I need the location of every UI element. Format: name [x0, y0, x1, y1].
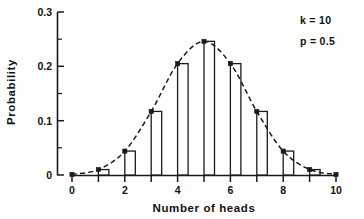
y-label-0: 0	[46, 169, 52, 181]
x-label-2: 2	[122, 184, 128, 196]
data-point-marker	[123, 149, 127, 153]
chart-svg: 0.3 0.2 0.1 0 Probability 0 2 4 6	[0, 0, 364, 219]
x-label-6: 6	[227, 184, 233, 196]
bar	[125, 151, 136, 175]
data-point-marker	[308, 167, 312, 171]
x-axis-title: Number of heads	[153, 202, 256, 214]
bar	[204, 41, 215, 175]
data-point-marker	[281, 149, 285, 153]
x-label-0: 0	[69, 184, 75, 196]
data-point-marker	[149, 109, 153, 113]
y-label-0.3: 0.3	[37, 6, 52, 18]
x-axis	[72, 176, 336, 183]
bar	[283, 151, 294, 175]
data-point-marker	[96, 167, 100, 171]
data-point-marker	[228, 62, 232, 66]
data-point-marker	[176, 62, 180, 66]
x-label-10: 10	[330, 184, 342, 196]
y-tick-labels: 0.3 0.2 0.1 0	[37, 6, 52, 181]
x-tick-labels: 0 2 4 6 8 10	[69, 184, 342, 196]
bar	[178, 64, 189, 175]
y-axis	[58, 12, 65, 176]
x-label-8: 8	[280, 184, 286, 196]
x-label-4: 4	[175, 184, 181, 196]
p-annotation: p = 0.5	[300, 35, 335, 47]
y-label-0.1: 0.1	[37, 115, 52, 127]
k-annotation: k = 10	[300, 14, 331, 26]
data-point-marker	[70, 172, 74, 176]
data-point-marker	[334, 172, 338, 176]
data-point-marker	[255, 109, 259, 113]
y-label-0.2: 0.2	[37, 60, 52, 72]
bar	[230, 64, 241, 175]
data-point-marker	[202, 39, 206, 43]
y-axis-title: Probability	[5, 59, 17, 125]
bar	[151, 111, 162, 175]
binomial-distribution-chart: 0.3 0.2 0.1 0 Probability 0 2 4 6	[0, 0, 364, 219]
